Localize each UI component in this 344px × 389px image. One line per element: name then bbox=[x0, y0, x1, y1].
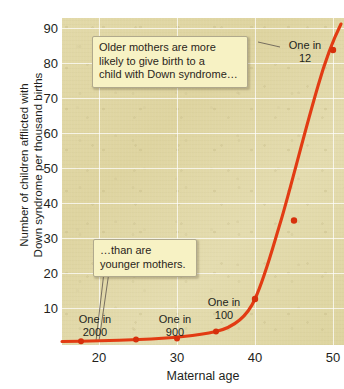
gridline-y-50 bbox=[62, 168, 344, 169]
x-tick-40: 40 bbox=[235, 350, 275, 365]
annotation-one-in-12: One in 12 bbox=[281, 39, 329, 64]
x-tick-20: 20 bbox=[79, 350, 119, 365]
gridline-y-40 bbox=[62, 203, 344, 204]
gridline-y-70 bbox=[62, 98, 344, 99]
y-axis-title-line2: Down syndrome per thousand births bbox=[31, 15, 45, 315]
callout-older-mothers: Older mothers are more likely to give bi… bbox=[92, 36, 248, 88]
y-axis-title: Number of children afflicted with Down s… bbox=[17, 15, 45, 315]
gridline-x-50 bbox=[333, 18, 334, 345]
x-tick-50: 50 bbox=[313, 350, 344, 365]
annotation-one-in-2000: One in 2000 bbox=[66, 313, 124, 338]
annotation-one-in-900: One in 900 bbox=[148, 313, 202, 338]
callout-younger-mothers: …than are younger mothers. bbox=[93, 239, 197, 277]
down-syndrome-maternal-age-chart: 90 80 70 60 50 40 30 20 10 20 30 40 50 M… bbox=[0, 0, 344, 389]
gridline-y-60 bbox=[62, 133, 344, 134]
annotation-one-in-100: One in 100 bbox=[199, 296, 249, 321]
x-axis-title: Maternal age bbox=[62, 369, 344, 383]
gridline-y-90 bbox=[62, 28, 344, 29]
y-axis-title-line1: Number of children afflicted with bbox=[17, 15, 31, 315]
gridline-x-40 bbox=[255, 18, 256, 345]
x-tick-30: 30 bbox=[157, 350, 197, 365]
